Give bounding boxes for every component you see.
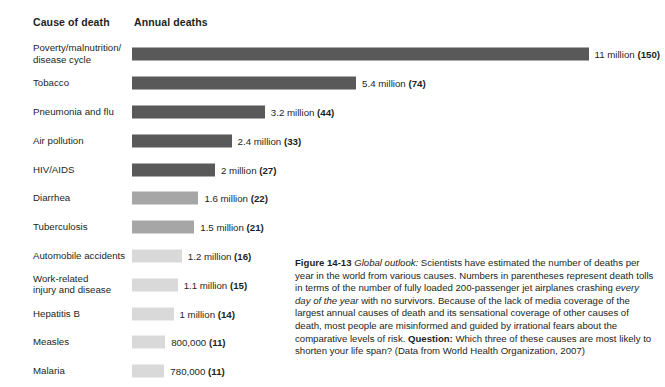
row-label-line-1: Malaria [33, 365, 65, 376]
bar-value-number: 780,000 [170, 366, 208, 377]
chart-row: HIV/AIDS2 million (27) [0, 155, 665, 184]
bar-value-number: 1.5 million [200, 222, 246, 233]
bar-value-number: 1 million [180, 308, 218, 319]
bar [132, 278, 178, 291]
chart-row: Diarrhea1.6 million (22) [0, 184, 665, 213]
bar-value-label: 2.4 million (33) [238, 135, 302, 146]
bar-value-label: 800,000 (11) [171, 337, 225, 348]
row-label-cause: Diarrhea [33, 193, 129, 205]
bar-track: 11 million (150) [132, 48, 660, 61]
bar-value-label: 1.1 million (15) [184, 279, 248, 290]
bar-track: 1.1 million (15) [132, 278, 247, 291]
bar-value-label: 3.2 million (44) [271, 106, 335, 117]
row-label-line-1: Pneumonia and flu [33, 106, 114, 117]
bar-value-label: 2 million (27) [221, 164, 276, 175]
bar-value-label: 780,000 (11) [170, 366, 224, 377]
bar [132, 249, 182, 262]
row-label-cause: Tobacco [33, 77, 129, 89]
bar-track: 1.6 million (22) [132, 192, 268, 205]
bar-track: 5.4 million (74) [132, 77, 426, 90]
row-label-line-1: Air pollution [33, 135, 84, 146]
bar-value-jet-equivalent: (11) [209, 337, 226, 348]
bar-value-label: 11 million (150) [595, 49, 661, 60]
bar-track: 2 million (27) [132, 163, 276, 176]
row-label-cause: Hepatitis B [33, 308, 129, 320]
bar-track: 1 million (14) [132, 307, 235, 320]
bar-track: 3.2 million (44) [132, 105, 334, 118]
bar-value-label: 1.6 million (22) [204, 193, 268, 204]
bar-value-number: 5.4 million [362, 78, 408, 89]
bar [132, 163, 215, 176]
column-header-cause-of-death: Cause of death [33, 16, 110, 28]
bar-value-jet-equivalent: (11) [208, 366, 225, 377]
row-label-line-1: Poverty/malnutrition/ [33, 43, 121, 54]
bar-value-jet-equivalent: (33) [284, 135, 301, 146]
row-label-cause: HIV/AIDS [33, 164, 129, 176]
bar [132, 336, 165, 349]
row-label-cause: Malaria [33, 365, 129, 377]
chart-row: Tobacco5.4 million (74) [0, 69, 665, 98]
bar-value-number: 1.1 million [184, 279, 230, 290]
bar-value-jet-equivalent: (44) [317, 106, 334, 117]
chart-row: Pneumonia and flu3.2 million (44) [0, 98, 665, 127]
bar [132, 365, 164, 378]
bar-value-number: 11 million [595, 49, 638, 60]
column-header-annual-deaths: Annual deaths [134, 16, 208, 28]
bar [132, 77, 356, 90]
chart-row: Tuberculosis1.5 million (21) [0, 213, 665, 242]
bar-value-label: 1.5 million (21) [200, 222, 264, 233]
bar-track: 1.2 million (16) [132, 249, 251, 262]
caption-title: Global outlook: [354, 257, 418, 268]
caption-question-label: Question: [408, 333, 453, 344]
bar [132, 221, 194, 234]
bar [132, 48, 589, 61]
row-label-line-2: injury and disease [33, 285, 111, 296]
bar-value-label: 1.2 million (16) [188, 250, 252, 261]
bar [132, 105, 265, 118]
row-label-line-1: HIV/AIDS [33, 164, 74, 175]
bar-value-jet-equivalent: (150) [637, 49, 660, 60]
row-label-line-1: Work-related [33, 273, 88, 284]
bar [132, 134, 232, 147]
row-label-line-1: Diarrhea [33, 193, 70, 204]
bar-value-label: 1 million (14) [180, 308, 235, 319]
bar-value-number: 2 million [221, 164, 259, 175]
bar-value-jet-equivalent: (22) [251, 193, 268, 204]
row-label-line-1: Measles [33, 337, 69, 348]
figure-caption: Figure 14-13 Global outlook: Scientists … [295, 257, 657, 358]
bar-value-number: 2.4 million [238, 135, 284, 146]
row-label-cause: Air pollution [33, 135, 129, 147]
bar-value-jet-equivalent: (21) [247, 222, 264, 233]
row-label-cause: Pneumonia and flu [33, 106, 129, 118]
bar-track: 780,000 (11) [132, 365, 225, 378]
bar-value-label: 5.4 million (74) [362, 78, 426, 89]
row-label-line-2: disease cycle [33, 54, 91, 65]
row-label-cause: Tuberculosis [33, 221, 129, 233]
bar-track: 1.5 million (21) [132, 221, 264, 234]
row-label-line-1: Automobile accidents [33, 250, 125, 261]
chart-row: Poverty/malnutrition/disease cycle11 mil… [0, 40, 665, 69]
figure-container: Cause of death Annual deaths Poverty/mal… [0, 0, 665, 387]
bar-track: 800,000 (11) [132, 336, 226, 349]
bar [132, 307, 174, 320]
row-label-cause: Measles [33, 337, 129, 349]
bar-value-number: 3.2 million [271, 106, 317, 117]
bar-value-jet-equivalent: (74) [408, 78, 425, 89]
row-label-cause: Work-relatedinjury and disease [33, 273, 129, 296]
bar-value-number: 1.6 million [204, 193, 250, 204]
row-label-line-1: Tobacco [33, 77, 69, 88]
bar [132, 192, 198, 205]
bar-value-jet-equivalent: (16) [234, 250, 251, 261]
bar-value-number: 800,000 [171, 337, 209, 348]
row-label-line-1: Hepatitis B [33, 308, 80, 319]
figure-number: Figure 14-13 [295, 257, 352, 268]
row-label-cause: Poverty/malnutrition/disease cycle [33, 43, 129, 66]
bar-value-jet-equivalent: (15) [230, 279, 247, 290]
row-label-cause: Automobile accidents [33, 250, 129, 262]
chart-row: Air pollution2.4 million (33) [0, 126, 665, 155]
bar-value-number: 1.2 million [188, 250, 234, 261]
bar-track: 2.4 million (33) [132, 134, 301, 147]
chart-row: Malaria780,000 (11) [0, 357, 665, 386]
bar-value-jet-equivalent: (14) [218, 308, 235, 319]
row-label-line-1: Tuberculosis [33, 221, 88, 232]
